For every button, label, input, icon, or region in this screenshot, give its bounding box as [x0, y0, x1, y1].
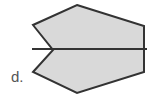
figure-label: d. [11, 68, 24, 85]
